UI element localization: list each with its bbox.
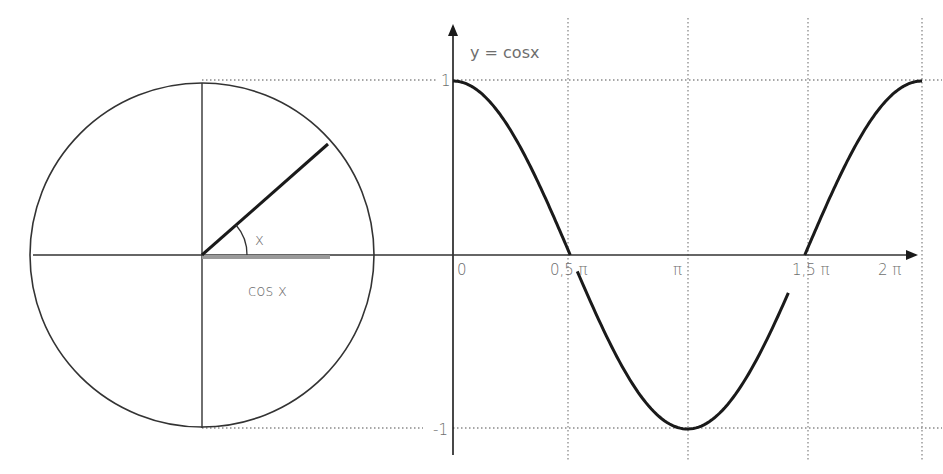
x-tick-label-0: 0 xyxy=(457,261,467,279)
graph-axes xyxy=(374,26,916,455)
x-tick-label-0-5pi: 0,5 π xyxy=(550,261,588,279)
y-tick-label-minus-1: -1 xyxy=(433,421,448,439)
curve-segment-1-5pi-to-2pi xyxy=(805,81,922,255)
unit-circle-group: x cos x xyxy=(30,83,374,428)
x-tick-label-1-5pi: 1,5 π xyxy=(792,261,830,279)
cos-x-label: cos x xyxy=(248,282,287,300)
curve-segment-0-to-half-pi xyxy=(453,81,570,255)
curve-segment-half-pi-to-1-5pi xyxy=(577,271,788,429)
angle-label: x xyxy=(255,231,264,249)
y-tick-label-1: 1 xyxy=(441,72,451,90)
function-label: y = cosx xyxy=(470,43,539,62)
radius-line xyxy=(202,144,328,255)
graph-labels: y = cosx 1 -1 0 0,5 π π 1,5 π 2 π xyxy=(433,43,901,439)
cosine-diagram: x cos x y = cosx 1 -1 0 0,5 π π 1,5 π 2 … xyxy=(0,0,943,474)
angle-arc xyxy=(236,225,247,255)
grid-lines xyxy=(202,18,942,460)
x-tick-label-2pi: 2 π xyxy=(878,261,901,279)
x-tick-label-pi: π xyxy=(673,261,682,279)
